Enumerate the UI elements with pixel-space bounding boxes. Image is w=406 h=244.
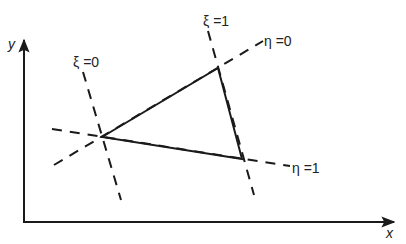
eta-1-label: η =1 [292,160,320,176]
eta-0-label: η =0 [264,33,292,49]
triangle-element [102,68,242,159]
triangle-natural-coordinates-diagram: y x ξ =0 ξ =1 η =0 η =1 [0,0,406,244]
xi-1-line [208,31,254,195]
x-axis-label: x [385,225,394,241]
xi-1-label: ξ =1 [203,13,229,29]
xi-0-label: ξ =0 [73,54,99,70]
y-axis-label: y [7,36,16,52]
